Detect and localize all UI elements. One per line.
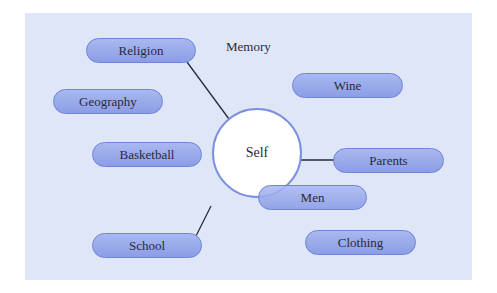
center-label: Self	[246, 145, 269, 161]
node-parents: Parents	[333, 148, 444, 173]
node-basketball: Basketball	[92, 142, 202, 167]
node-label: Parents	[369, 153, 407, 169]
node-men: Men	[258, 185, 367, 210]
node-religion: Religion	[86, 38, 196, 63]
node-label: School	[129, 238, 165, 254]
node-label: Men	[301, 190, 325, 206]
node-label: Basketball	[120, 147, 175, 163]
node-clothing: Clothing	[305, 230, 416, 255]
node-label: Geography	[79, 94, 137, 110]
node-label: Religion	[119, 43, 164, 59]
node-wine: Wine	[292, 73, 403, 98]
node-label: Clothing	[338, 235, 384, 251]
free-label-memory: Memory	[226, 39, 271, 55]
node-label: Wine	[334, 78, 362, 94]
connector-religion	[187, 62, 229, 119]
connector-school	[196, 206, 211, 236]
node-geography: Geography	[53, 89, 163, 114]
node-school: School	[92, 233, 202, 258]
